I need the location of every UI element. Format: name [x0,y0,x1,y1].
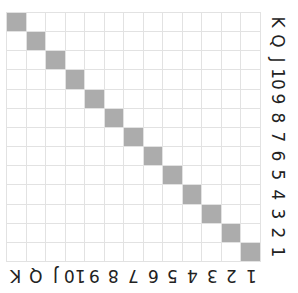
grid-cell[interactable] [183,128,203,147]
grid-cell[interactable] [241,90,261,109]
grid-cell[interactable] [144,32,164,51]
grid-cell[interactable] [183,90,203,109]
grid-cell[interactable] [124,109,144,128]
grid-cell[interactable] [202,224,222,243]
grid-cell[interactable] [222,32,242,51]
grid-cell[interactable] [222,90,242,109]
grid-cell[interactable] [183,13,203,32]
grid-cell[interactable] [144,13,164,32]
grid-cell[interactable] [202,32,222,51]
grid-cell[interactable] [241,70,261,89]
grid-cell-filled[interactable] [46,51,66,70]
grid-cell[interactable] [183,224,203,243]
grid-cell[interactable] [183,205,203,224]
grid-cell[interactable] [66,90,86,109]
grid-cell[interactable] [7,128,27,147]
grid-cell[interactable] [144,205,164,224]
grid-cell[interactable] [66,51,86,70]
grid-cell[interactable] [163,109,183,128]
grid-cell[interactable] [124,147,144,166]
grid-cell[interactable] [124,90,144,109]
grid-cell[interactable] [222,70,242,89]
grid-cell-filled[interactable] [27,32,47,51]
grid-cell[interactable] [27,224,47,243]
grid-cell[interactable] [66,243,86,262]
grid-cell[interactable] [241,224,261,243]
grid-cell[interactable] [202,166,222,185]
grid-cell[interactable] [7,51,27,70]
grid-cell[interactable] [85,51,105,70]
grid-cell[interactable] [144,51,164,70]
grid-cell[interactable] [27,205,47,224]
grid-cell[interactable] [27,70,47,89]
grid-cell[interactable] [27,51,47,70]
grid-cell-filled[interactable] [183,185,203,204]
grid-cell[interactable] [105,32,125,51]
grid-cell[interactable] [27,90,47,109]
grid-cell[interactable] [144,166,164,185]
grid-cell[interactable] [85,13,105,32]
grid-cell[interactable] [183,32,203,51]
grid-cell[interactable] [66,128,86,147]
grid-cell[interactable] [183,51,203,70]
grid-cell[interactable] [222,243,242,262]
grid-cell[interactable] [163,13,183,32]
grid-cell[interactable] [46,128,66,147]
grid-cell-filled[interactable] [163,166,183,185]
grid-cell[interactable] [7,70,27,89]
grid-cell[interactable] [105,128,125,147]
grid-cell[interactable] [163,32,183,51]
grid-cell[interactable] [46,13,66,32]
grid-cell[interactable] [66,109,86,128]
grid-cell[interactable] [163,147,183,166]
grid-cell[interactable] [105,224,125,243]
grid-cell-filled[interactable] [222,224,242,243]
grid-cell[interactable] [241,166,261,185]
grid-cell[interactable] [124,205,144,224]
grid-cell[interactable] [66,185,86,204]
grid-cell[interactable] [85,109,105,128]
grid-cell[interactable] [46,90,66,109]
grid-cell[interactable] [124,185,144,204]
grid-cell[interactable] [144,109,164,128]
grid-cell[interactable] [202,109,222,128]
grid-cell[interactable] [144,243,164,262]
grid-cell[interactable] [7,224,27,243]
grid-cell[interactable] [183,70,203,89]
grid-cell[interactable] [105,90,125,109]
grid-cell[interactable] [124,32,144,51]
grid-cell[interactable] [144,128,164,147]
grid-cell[interactable] [241,32,261,51]
grid-cell[interactable] [85,166,105,185]
grid-cell[interactable] [66,224,86,243]
grid-cell[interactable] [27,166,47,185]
grid-cell-filled[interactable] [66,70,86,89]
grid-cell[interactable] [66,147,86,166]
grid-cell[interactable] [241,185,261,204]
grid-cell[interactable] [85,147,105,166]
grid-cell[interactable] [105,147,125,166]
grid-cell[interactable] [202,185,222,204]
grid-cell[interactable] [163,205,183,224]
grid-cell[interactable] [27,13,47,32]
grid-cell[interactable] [46,147,66,166]
grid-cell[interactable] [66,32,86,51]
grid-cell[interactable] [7,205,27,224]
grid-cell[interactable] [202,51,222,70]
grid-cell[interactable] [163,224,183,243]
grid-cell[interactable] [105,185,125,204]
grid-cell[interactable] [144,70,164,89]
grid-cell[interactable] [222,109,242,128]
grid-cell[interactable] [202,147,222,166]
grid-cell[interactable] [163,90,183,109]
grid-cell[interactable] [124,243,144,262]
grid-cell[interactable] [241,205,261,224]
grid-cell[interactable] [46,70,66,89]
grid-cell[interactable] [144,185,164,204]
grid-cell-filled[interactable] [144,147,164,166]
grid-cell-filled[interactable] [7,13,27,32]
grid-cell[interactable] [105,13,125,32]
grid-cell[interactable] [105,51,125,70]
grid-cell[interactable] [241,51,261,70]
grid-cell[interactable] [183,166,203,185]
